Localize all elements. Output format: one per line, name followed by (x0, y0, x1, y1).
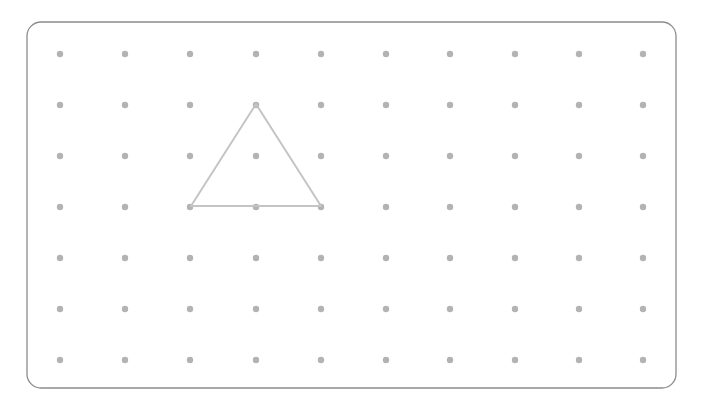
peg-dot (576, 153, 582, 159)
peg-dot (57, 255, 63, 261)
peg-dot (640, 51, 646, 57)
peg-dot (447, 102, 453, 108)
peg-dot (318, 357, 324, 363)
geoboard (0, 0, 702, 406)
peg-dot (447, 153, 453, 159)
peg-dot (512, 306, 518, 312)
peg-dot (447, 306, 453, 312)
peg-dot (447, 51, 453, 57)
peg-dot (318, 255, 324, 261)
peg-dot (253, 255, 259, 261)
peg-grid (57, 51, 646, 363)
peg-dot (122, 255, 128, 261)
peg-dot (57, 153, 63, 159)
peg-dot (253, 51, 259, 57)
peg-dot (318, 51, 324, 57)
peg-dot (383, 204, 389, 210)
peg-dot (187, 255, 193, 261)
peg-dot (640, 153, 646, 159)
peg-dot (576, 357, 582, 363)
peg-dot (187, 306, 193, 312)
peg-dot (383, 102, 389, 108)
peg-dot (57, 357, 63, 363)
peg-dot (122, 306, 128, 312)
peg-dot (318, 102, 324, 108)
peg-dot (512, 357, 518, 363)
peg-dot (57, 102, 63, 108)
peg-dot (122, 102, 128, 108)
peg-dot (512, 102, 518, 108)
peg-dot (187, 102, 193, 108)
peg-dot (57, 51, 63, 57)
peg-dot (640, 255, 646, 261)
peg-dot (512, 255, 518, 261)
peg-dot (318, 306, 324, 312)
peg-dot (576, 255, 582, 261)
peg-dot (253, 153, 259, 159)
peg-dot (253, 306, 259, 312)
peg-dot (447, 204, 453, 210)
peg-dot (253, 357, 259, 363)
peg-dot (57, 204, 63, 210)
peg-dot (576, 204, 582, 210)
peg-dot (640, 204, 646, 210)
peg-dot (122, 153, 128, 159)
peg-dot (640, 102, 646, 108)
peg-dot (383, 357, 389, 363)
peg-dot (187, 357, 193, 363)
peg-dot (383, 51, 389, 57)
peg-dot (576, 51, 582, 57)
peg-dot (640, 357, 646, 363)
peg-dot (576, 306, 582, 312)
peg-dot (447, 357, 453, 363)
peg-dot (122, 357, 128, 363)
peg-dot (187, 51, 193, 57)
peg-dot (122, 204, 128, 210)
peg-dot (383, 306, 389, 312)
peg-dot (57, 306, 63, 312)
peg-dot (187, 153, 193, 159)
peg-dot (383, 255, 389, 261)
peg-dot (640, 306, 646, 312)
peg-dot (318, 153, 324, 159)
peg-dot (122, 51, 128, 57)
peg-dot (512, 204, 518, 210)
peg-dot (512, 153, 518, 159)
peg-dot (576, 102, 582, 108)
peg-dot (512, 51, 518, 57)
peg-dot (447, 255, 453, 261)
peg-dot (383, 153, 389, 159)
